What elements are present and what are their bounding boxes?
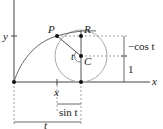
label-neg-cos-t: −cos t	[128, 40, 155, 52]
label-x-mark: x	[53, 86, 59, 98]
point-origin	[12, 80, 16, 84]
label-p: P	[47, 23, 55, 35]
label-r: R	[83, 23, 91, 35]
point-r	[79, 34, 83, 38]
point-contact	[79, 80, 83, 84]
label-y: y	[2, 30, 8, 42]
cycloid-diagram: y x P R C t x −cos t 1 sin t t	[0, 0, 163, 129]
label-t-bottom: t	[44, 119, 48, 129]
label-x-axis: x	[151, 75, 157, 87]
point-p	[55, 34, 59, 38]
label-c: C	[84, 55, 92, 67]
label-one: 1	[128, 63, 134, 75]
point-c	[79, 54, 83, 58]
radius-cp	[57, 36, 81, 56]
label-sin-t: sin t	[59, 106, 78, 118]
